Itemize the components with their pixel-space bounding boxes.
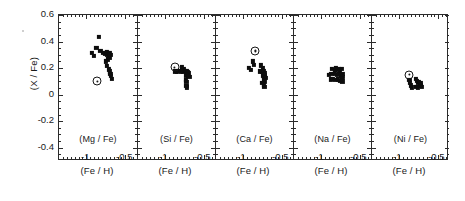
x-tick-minor [380,15,381,17]
x-tick-minor [228,15,229,17]
y-tick-minor [294,28,296,29]
x-tick-minor [129,15,130,17]
y-tick-minor [59,128,61,129]
x-tick-minor [193,15,194,17]
x-tick-major [282,15,283,19]
y-tick-major [59,95,63,96]
y-tick-minor [216,48,218,49]
y-tick-major [372,42,376,43]
x-axis-title: (Fe / H) [370,165,448,176]
x-tick-major [438,15,439,19]
y-tick-minor [372,115,374,116]
x-tick-minor [411,15,412,17]
y-tick-minor [216,61,218,62]
x-tick-minor [353,15,354,17]
x-axis-title: (Fe / H) [136,165,214,176]
x-tick-minor [133,15,134,17]
panel-mg-fe: (Mg / Fe) [59,15,137,159]
x-tick-minor [298,15,299,17]
x-tick-minor [434,15,435,17]
y-tick-major [138,121,142,122]
y-tick-minor [138,61,140,62]
y-tick-minor [138,88,140,89]
data-point-marker [108,53,112,57]
x-axis-title: (Fe / H) [214,165,292,176]
y-tick-minor [447,88,449,89]
x-axis-zone: -1-0.5(Fe / H) [370,146,448,192]
y-tick-major [216,121,220,122]
x-tick-label: -1 [159,151,167,162]
x-tick-minor [71,15,72,17]
data-point-marker [420,85,424,89]
x-tick-minor [263,15,264,17]
x-tick-minor [427,15,428,17]
x-tick-label: -0.5 [428,151,444,162]
y-tick-major [59,42,63,43]
x-tick-major [86,15,87,19]
x-axis-zone: -1-0.5(Fe / H) [58,146,136,192]
x-tick-minor [79,15,80,17]
x-tick-minor [271,15,272,17]
y-tick-minor [216,22,218,23]
x-tick-major [360,15,361,19]
x-tick-minor [384,15,385,17]
x-tick-minor [356,15,357,17]
x-tick-minor [142,15,143,17]
y-tick-minor [138,28,140,29]
y-tick-label: 0 [20,89,54,99]
x-tick-minor [337,15,338,17]
panel-label: (Si / Fe) [138,134,215,144]
data-point-marker [339,67,343,71]
y-tick-minor [294,81,296,82]
x-tick-minor [388,15,389,17]
y-tick-major [294,42,298,43]
x-tick-minor [181,15,182,17]
x-tick-minor [325,15,326,17]
x-tick-minor [239,15,240,17]
panel-ca-fe: (Ca / Fe) [215,15,293,159]
x-tick-minor [224,15,225,17]
y-tick-minor [372,108,374,109]
y-tick-minor [372,81,374,82]
panel-grid: (Mg / Fe)(Si / Fe)(Ca / Fe)(Na / Fe)(Ni … [58,14,448,160]
x-tick-minor [63,15,64,17]
y-tick-minor [294,108,296,109]
y-tick-minor [138,101,140,102]
sun-symbol-marker [251,46,260,55]
y-tick-minor [216,35,218,36]
y-tick-minor [447,128,449,129]
x-tick-minor [349,15,350,17]
x-tick-minor [310,15,311,17]
x-tick-minor [306,15,307,17]
x-tick-minor [415,15,416,17]
y-tick-minor [138,75,140,76]
y-tick-minor [59,22,61,23]
y-tick-minor [294,128,296,129]
x-tick-label: -1 [393,151,401,162]
x-tick-minor [333,15,334,17]
x-tick-major [204,15,205,19]
x-tick-minor [161,15,162,17]
data-point-marker [252,63,256,67]
x-tick-minor [208,15,209,17]
x-axis-zone: -1-0.5(Fe / H) [292,146,370,192]
x-tick-minor [419,15,420,17]
y-tick-major [216,95,220,96]
y-tick-minor [294,101,296,102]
y-tick-minor [138,22,140,23]
data-point-marker [340,79,344,83]
y-tick-minor [216,115,218,116]
y-tick-minor [447,108,449,109]
x-tick-minor [212,15,213,17]
x-tick-label: -0.5 [350,151,366,162]
y-tick-major [138,95,142,96]
data-point-marker [416,86,420,90]
y-tick-minor [372,28,374,29]
y-tick-minor [138,108,140,109]
y-tick-major [216,42,220,43]
x-tick-minor [267,15,268,17]
x-axis-title: (Fe / H) [292,165,370,176]
x-tick-minor [286,15,287,17]
y-tick-major [294,95,298,96]
x-tick-minor [90,15,91,17]
